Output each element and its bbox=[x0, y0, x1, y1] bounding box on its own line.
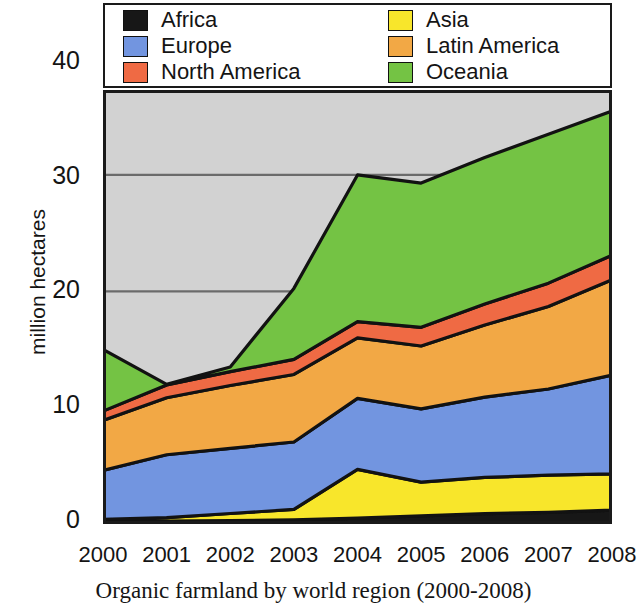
x-axis-tick-label: 2007 bbox=[516, 544, 580, 566]
legend-column-right: Asia Latin America Oceania bbox=[376, 5, 624, 86]
legend-swatch-africa bbox=[123, 10, 148, 31]
legend-item-north-america: North America bbox=[123, 59, 376, 85]
x-axis-tick-label: 2005 bbox=[389, 544, 453, 566]
legend-item-latin-america: Latin America bbox=[388, 33, 624, 59]
y-axis-tick-label: 10 bbox=[20, 392, 80, 417]
legend-label-africa: Africa bbox=[161, 9, 217, 31]
plot-area bbox=[103, 90, 612, 524]
legend-item-asia: Asia bbox=[388, 7, 624, 33]
stacked-area-chart bbox=[103, 90, 612, 524]
legend-label-north-america: North America bbox=[161, 61, 300, 83]
x-axis-tick-label: 2008 bbox=[580, 544, 641, 566]
x-axis-tick-labels: 200020012002200320042005200620072008 bbox=[103, 544, 612, 572]
chart-legend: Africa Europe North America Asia Latin A… bbox=[103, 3, 612, 88]
x-axis-tick-label: 2006 bbox=[453, 544, 517, 566]
legend-column-left: Africa Europe North America bbox=[105, 5, 376, 86]
legend-label-europe: Europe bbox=[161, 35, 232, 57]
legend-swatch-europe bbox=[123, 36, 148, 57]
legend-swatch-north-america bbox=[123, 62, 148, 83]
legend-swatch-oceania bbox=[388, 62, 413, 83]
x-axis-tick-label: 2000 bbox=[71, 544, 135, 566]
y-axis-tick-label: 30 bbox=[20, 163, 80, 188]
legend-swatch-latin-america bbox=[388, 36, 413, 57]
x-axis-tick-label: 2004 bbox=[326, 544, 390, 566]
y-axis-tick-label: 40 bbox=[20, 48, 80, 73]
y-axis-tick-label: 20 bbox=[20, 277, 80, 302]
legend-item-africa: Africa bbox=[123, 7, 376, 33]
y-axis-tick-label: 0 bbox=[20, 507, 80, 532]
x-axis-tick-label: 2003 bbox=[262, 544, 326, 566]
legend-label-latin-america: Latin America bbox=[426, 35, 559, 57]
legend-swatch-asia bbox=[388, 10, 413, 31]
legend-item-europe: Europe bbox=[123, 33, 376, 59]
x-axis-tick-label: 2002 bbox=[198, 544, 262, 566]
legend-label-asia: Asia bbox=[426, 9, 469, 31]
figure-caption: Organic farmland by world region (2000-2… bbox=[0, 578, 627, 604]
legend-item-oceania: Oceania bbox=[388, 59, 624, 85]
x-axis-tick-label: 2001 bbox=[135, 544, 199, 566]
legend-label-oceania: Oceania bbox=[426, 61, 508, 83]
